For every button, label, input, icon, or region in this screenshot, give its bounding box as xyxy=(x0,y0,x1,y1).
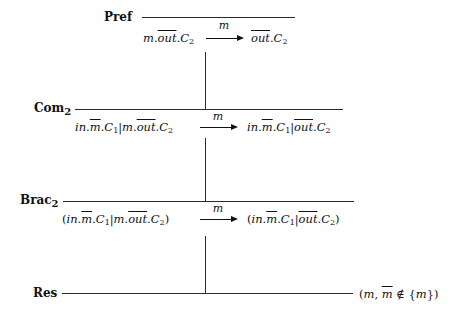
brac2-source-term: (in.m.C1|m.out.C2) xyxy=(62,212,169,226)
transition-arrow-icon xyxy=(200,127,236,128)
rule-name: Pref xyxy=(104,10,132,24)
tree-connector xyxy=(205,52,206,109)
derivation-diagram: Pref m.out.C2 m out.C2 Com2 in.m.C1|m.ou… xyxy=(0,0,457,319)
rule-label-brac2: Brac2 xyxy=(20,193,59,207)
res-side-condition: (m, m ∉ {m}) xyxy=(359,287,438,301)
transition-arrow-icon xyxy=(200,219,236,220)
transition-arrow-icon xyxy=(206,38,242,39)
com2-target-term: in.m.C1|out.C2 xyxy=(247,120,331,134)
tree-connector xyxy=(205,236,206,293)
inference-line-res xyxy=(62,293,353,294)
com2-source-term: in.m.C1|m.out.C2 xyxy=(75,120,173,134)
rule-label-pref: Pref xyxy=(104,10,132,24)
brac2-target-term: (in.m.C1|out.C2) xyxy=(247,212,340,226)
rule-label-res: Res xyxy=(33,286,57,300)
tree-connector xyxy=(205,138,206,201)
rule-label-com2: Com2 xyxy=(34,101,71,115)
pref-target-term: out.C2 xyxy=(251,31,288,45)
pref-source-term: m.out.C2 xyxy=(143,31,194,45)
brac2-action-label: m xyxy=(200,203,236,215)
com2-action-label: m xyxy=(200,111,236,123)
pref-action-label: m xyxy=(206,20,242,32)
